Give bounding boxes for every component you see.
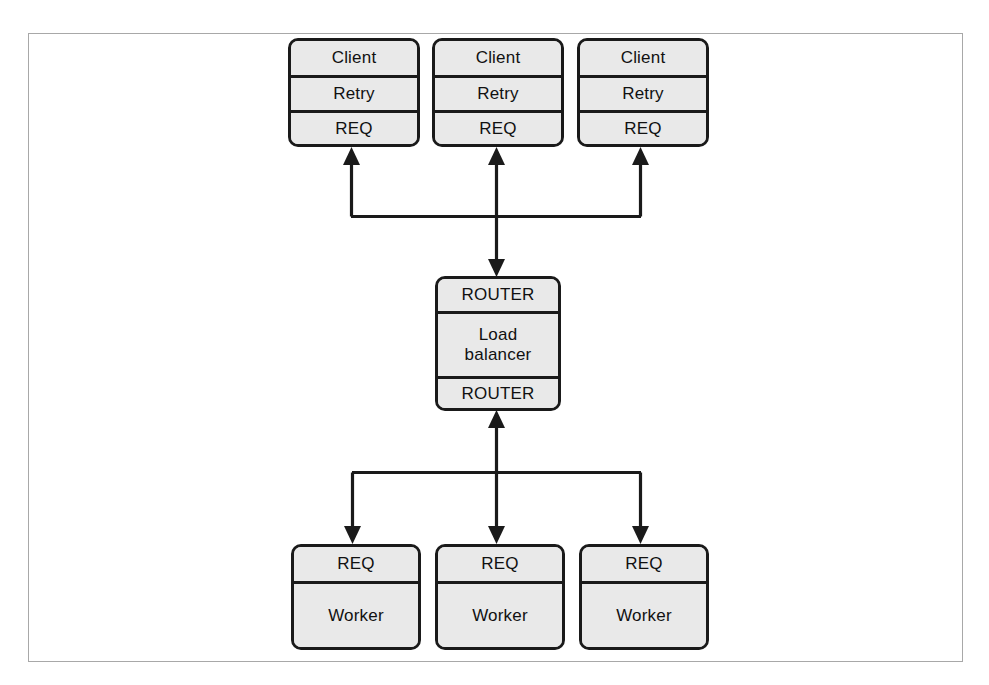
worker-role-label-3: Worker: [582, 581, 706, 647]
client-node-1[interactable]: Client Retry REQ: [288, 38, 420, 147]
client-retry-label-3: Retry: [580, 75, 706, 109]
client-role-label-1: Client: [291, 41, 417, 75]
client-node-2[interactable]: Client Retry REQ: [432, 38, 564, 147]
worker-socket-label-3: REQ: [582, 547, 706, 581]
worker-socket-label-2: REQ: [438, 547, 562, 581]
load-balancer-role-label: Load balancer: [438, 311, 558, 376]
load-balancer-node[interactable]: ROUTER Load balancer ROUTER: [435, 276, 561, 411]
worker-node-3[interactable]: REQ Worker: [579, 544, 709, 650]
worker-role-label-2: Worker: [438, 581, 562, 647]
client-retry-label-2: Retry: [435, 75, 561, 109]
worker-node-1[interactable]: REQ Worker: [291, 544, 421, 650]
client-retry-label-1: Retry: [291, 75, 417, 109]
figure-canvas: Client Retry REQ Client Retry REQ Client…: [0, 0, 989, 685]
worker-role-label-1: Worker: [294, 581, 418, 647]
worker-socket-label-1: REQ: [294, 547, 418, 581]
router-socket-in-label: ROUTER: [438, 279, 558, 311]
client-socket-label-2: REQ: [435, 110, 561, 144]
client-role-label-3: Client: [580, 41, 706, 75]
client-socket-label-1: REQ: [291, 110, 417, 144]
worker-node-2[interactable]: REQ Worker: [435, 544, 565, 650]
client-node-3[interactable]: Client Retry REQ: [577, 38, 709, 147]
router-socket-out-label: ROUTER: [438, 376, 558, 408]
client-socket-label-3: REQ: [580, 110, 706, 144]
client-role-label-2: Client: [435, 41, 561, 75]
